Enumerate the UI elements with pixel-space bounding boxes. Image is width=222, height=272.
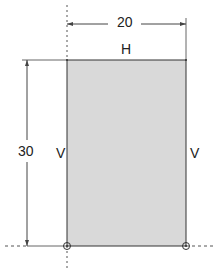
width-dimension-label[interactable]: 20: [117, 15, 133, 29]
rectangle-sketch: [0, 0, 222, 272]
sketch-canvas: 20 30 H V V: [0, 0, 222, 272]
point-dot-icon: [66, 59, 68, 61]
point-dot-icon: [185, 59, 187, 61]
arrow-up-icon: [25, 60, 29, 66]
point-dot-icon: [185, 245, 187, 247]
arrow-right-icon: [180, 22, 186, 26]
arrow-left-icon: [67, 22, 73, 26]
arrow-down-icon: [25, 240, 29, 246]
point-dot-icon: [66, 245, 68, 247]
horizontal-constraint-label: H: [121, 42, 131, 56]
height-dimension-label[interactable]: 30: [18, 144, 34, 158]
vertical-constraint-left-label: V: [56, 146, 65, 160]
vertical-constraint-right-label: V: [190, 146, 199, 160]
rectangle[interactable]: [67, 60, 186, 246]
